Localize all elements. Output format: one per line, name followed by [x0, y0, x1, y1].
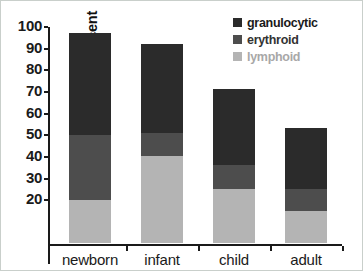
legend-item-lymphoid[interactable]: lymphoid — [233, 49, 359, 64]
y-axis-tick-mark — [44, 91, 48, 93]
x-axis-line — [48, 244, 342, 246]
x-axis-tick-mark — [270, 246, 272, 251]
bar-segment-granulocytic[interactable] — [141, 44, 183, 133]
y-axis-tick-mark — [44, 199, 48, 201]
bar-segment-erythroid[interactable] — [285, 189, 327, 211]
legend-item-label: erythroid — [247, 33, 298, 47]
legend-item-label: lymphoid — [247, 50, 300, 64]
legend-swatch-icon — [233, 52, 242, 61]
chart-figure: cellularity percent 1009080706050403020 … — [0, 0, 363, 271]
y-axis-tick-label: 100 — [2, 17, 42, 34]
bar-segment-granulocytic[interactable] — [285, 128, 327, 189]
y-axis-tick-label: 50 — [2, 125, 42, 142]
y-axis-tick-mark — [44, 134, 48, 136]
bar-segment-erythroid[interactable] — [141, 133, 183, 157]
bar-infant[interactable] — [141, 44, 183, 243]
y-axis-tick-mark — [44, 178, 48, 180]
y-axis-tick-mark — [44, 69, 48, 71]
y-axis-tick-label: 90 — [2, 39, 42, 56]
bar-segment-lymphoid[interactable] — [213, 189, 255, 243]
y-axis-tick-mark — [44, 48, 48, 50]
y-axis-tick-mark — [44, 113, 48, 115]
legend-swatch-icon — [233, 35, 242, 44]
legend-item-label: granulocytic — [247, 16, 318, 30]
bar-segment-lymphoid[interactable] — [285, 211, 327, 243]
legend-item-erythroid[interactable]: erythroid — [233, 32, 359, 47]
y-axis-tick-mark — [44, 26, 48, 28]
bar-segment-lymphoid[interactable] — [141, 156, 183, 243]
x-axis-tick-mark — [342, 246, 344, 251]
bar-adult[interactable] — [285, 128, 327, 243]
chart-legend: granulocyticerythroidlymphoid — [233, 15, 359, 66]
x-axis-category-label: adult — [251, 251, 361, 268]
y-axis-tick-label: 20 — [2, 190, 42, 207]
y-axis-tick-label: 70 — [2, 82, 42, 99]
y-axis-tick-label: 60 — [2, 104, 42, 121]
bar-segment-granulocytic[interactable] — [213, 89, 255, 165]
y-axis-tick-label: 40 — [2, 147, 42, 164]
bar-segment-lymphoid[interactable] — [69, 200, 111, 243]
bar-newborn[interactable] — [69, 33, 111, 243]
y-axis-line — [48, 27, 50, 264]
bar-segment-erythroid[interactable] — [69, 135, 111, 200]
x-axis-tick-mark — [198, 246, 200, 251]
bar-segment-granulocytic[interactable] — [69, 33, 111, 135]
y-axis-tick-mark — [44, 156, 48, 158]
x-axis-tick-mark — [48, 246, 50, 251]
bar-child[interactable] — [213, 89, 255, 243]
legend-item-granulocytic[interactable]: granulocytic — [233, 15, 359, 30]
y-axis-tick-label: 80 — [2, 60, 42, 77]
bar-segment-erythroid[interactable] — [213, 165, 255, 189]
x-axis-tick-mark — [126, 246, 128, 251]
legend-swatch-icon — [233, 18, 242, 27]
y-axis-tick-label: 30 — [2, 169, 42, 186]
